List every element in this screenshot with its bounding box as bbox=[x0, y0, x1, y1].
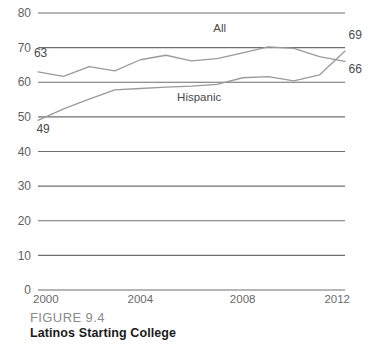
y-tick-label: 30 bbox=[18, 179, 32, 193]
figure-caption: FIGURE 9.4 Latinos Starting College bbox=[30, 310, 360, 341]
chart-annotations-group: AllHispanic63496966 bbox=[34, 22, 362, 136]
y-tick-label: 20 bbox=[18, 214, 32, 228]
x-tick-label: 2004 bbox=[128, 293, 154, 305]
y-axis-tick-labels: 80706050403020100 bbox=[18, 6, 32, 297]
gridlines-group bbox=[38, 13, 345, 290]
x-tick-label: 2000 bbox=[33, 293, 59, 305]
y-tick-label: 10 bbox=[18, 249, 32, 263]
series-name-label: Hispanic bbox=[177, 91, 221, 103]
figure-container: 80706050403020100 2000200420082012 AllHi… bbox=[0, 0, 372, 356]
series-line-all bbox=[38, 47, 345, 76]
figure-title: Latinos Starting College bbox=[30, 326, 360, 341]
y-tick-label: 0 bbox=[24, 283, 31, 297]
line-chart: 80706050403020100 2000200420082012 AllHi… bbox=[0, 0, 372, 356]
y-tick-label: 70 bbox=[18, 41, 32, 55]
y-tick-label: 50 bbox=[18, 110, 32, 124]
data-value-label: 66 bbox=[349, 62, 363, 76]
data-value-label: 69 bbox=[349, 28, 363, 42]
x-tick-label: 2012 bbox=[324, 293, 350, 305]
series-name-label: All bbox=[213, 22, 226, 34]
y-tick-label: 80 bbox=[18, 6, 32, 20]
series-line-hispanic bbox=[38, 51, 345, 120]
series-lines-group bbox=[38, 47, 345, 120]
data-value-label: 49 bbox=[36, 122, 50, 136]
data-value-label: 63 bbox=[34, 46, 48, 60]
y-tick-label: 40 bbox=[18, 145, 32, 159]
figure-number: FIGURE 9.4 bbox=[30, 310, 360, 325]
x-tick-label: 2008 bbox=[230, 293, 256, 305]
x-axis-tick-labels: 2000200420082012 bbox=[33, 293, 350, 305]
y-tick-label: 60 bbox=[18, 75, 32, 89]
